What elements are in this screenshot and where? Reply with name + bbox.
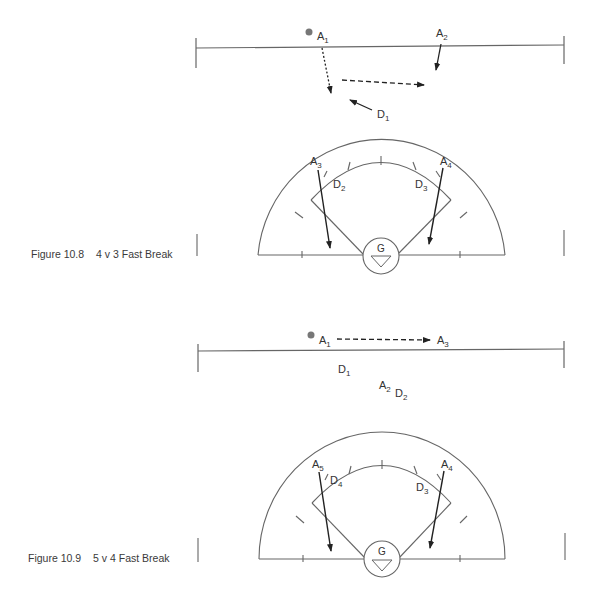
figure-title: 5 v 4 Fast Break xyxy=(93,552,169,564)
pass-arrow xyxy=(337,339,430,340)
figure-caption-10-8: Figure 10.8 4 v 3 Fast Break xyxy=(31,248,173,260)
label-goalie: G xyxy=(377,243,385,254)
label-a3: A3 xyxy=(310,155,322,170)
label-a4: A4 xyxy=(440,155,452,170)
figure-number: Figure 10.9 xyxy=(28,552,81,564)
figure-title: 4 v 3 Fast Break xyxy=(96,248,172,260)
movement-arrows xyxy=(322,44,441,110)
label-d4: D4 xyxy=(330,474,343,489)
restraining-line xyxy=(196,36,564,68)
label-a1: A1 xyxy=(317,30,329,45)
label-goalie: G xyxy=(378,546,386,557)
restraining-line xyxy=(198,341,564,372)
goal-crease: G xyxy=(363,238,399,274)
label-d1: D1 xyxy=(377,108,390,123)
figure-10-8: A1 A2 D1 xyxy=(196,27,564,274)
label-a3: A3 xyxy=(437,334,449,349)
ball-icon xyxy=(308,332,315,339)
label-a2: A2 xyxy=(436,27,448,42)
label-d1: D1 xyxy=(338,363,351,378)
label-d2: D2 xyxy=(395,387,408,402)
figure-10-9: A1 A3 D1 A2 D2 G A5 A xyxy=(198,332,565,578)
label-a4: A4 xyxy=(441,458,453,473)
figure-caption-10-9: Figure 10.9 5 v 4 Fast Break xyxy=(28,552,170,564)
label-a2: A2 xyxy=(379,379,391,394)
goal-crease: G xyxy=(364,541,400,577)
label-a1: A1 xyxy=(319,334,331,349)
label-d3: D3 xyxy=(416,481,429,496)
label-d3: D3 xyxy=(415,178,428,193)
figure-number: Figure 10.8 xyxy=(31,248,84,260)
ball-icon xyxy=(306,29,313,36)
fast-break-diagrams: A1 A2 D1 xyxy=(0,0,589,590)
label-d2: D2 xyxy=(333,178,346,193)
label-a5: A5 xyxy=(312,458,324,473)
